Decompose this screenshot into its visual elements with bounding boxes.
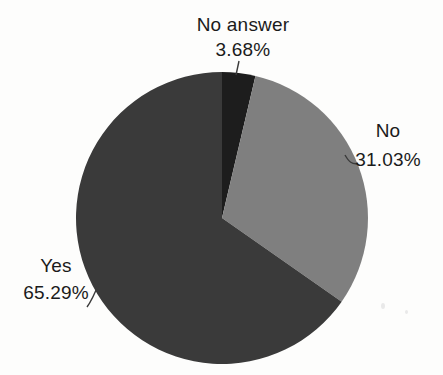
pie-slices-group xyxy=(76,72,368,364)
pie-chart-figure: No answer 3.68% No 31.03% Yes 65.29% xyxy=(0,0,443,375)
scan-speck xyxy=(405,310,408,314)
scan-speck xyxy=(381,303,385,309)
slice-label-no: No 31.03% xyxy=(347,116,429,174)
slice-label-no-answer-value: 3.68% xyxy=(183,37,303,62)
slice-label-yes: Yes 65.29% xyxy=(10,252,102,306)
slice-label-yes-text: Yes xyxy=(10,252,102,279)
slice-label-no-answer-text: No answer xyxy=(183,12,303,37)
slice-label-no-answer: No answer 3.68% xyxy=(183,12,303,62)
slice-label-no-text: No xyxy=(347,116,429,145)
slice-label-no-value: 31.03% xyxy=(347,145,429,174)
slice-label-yes-value: 65.29% xyxy=(10,279,102,306)
